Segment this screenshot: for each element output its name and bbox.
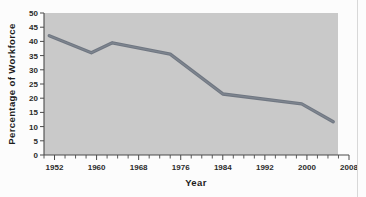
y-tick-label: 35 — [29, 52, 38, 61]
x-tick-label: 1976 — [172, 163, 190, 172]
y-axis-ticks — [40, 13, 44, 155]
y-tick-label: 20 — [29, 94, 38, 103]
y-tick-label: 10 — [29, 123, 38, 132]
panel-right-border — [357, 0, 358, 197]
y-axis-tick-labels: 05101520253035404550 — [29, 9, 38, 160]
x-tick-label: 1952 — [46, 163, 64, 172]
y-tick-label: 25 — [29, 80, 38, 89]
line-chart: 05101520253035404550 1952196019681976198… — [0, 0, 366, 197]
x-tick-label: 1992 — [256, 163, 274, 172]
plot-background — [44, 13, 338, 155]
x-tick-label: 2000 — [298, 163, 316, 172]
y-axis-label: Percentage of Workforce — [6, 23, 17, 144]
x-tick-label: 1984 — [214, 163, 232, 172]
y-tick-label: 15 — [29, 108, 38, 117]
x-axis-tick-labels: 19521960196819761984199220002008 — [46, 163, 359, 172]
y-tick-label: 40 — [29, 37, 38, 46]
x-tick-label: 2008 — [340, 163, 358, 172]
chart-figure: 05101520253035404550 1952196019681976198… — [0, 0, 366, 197]
y-tick-label: 0 — [34, 151, 39, 160]
x-tick-label: 1968 — [130, 163, 148, 172]
x-axis-ticks — [44, 155, 349, 160]
x-tick-label: 1960 — [88, 163, 106, 172]
y-tick-label: 50 — [29, 9, 38, 18]
y-tick-label: 30 — [29, 66, 38, 75]
x-axis-label: Year — [185, 177, 207, 188]
y-tick-label: 45 — [29, 23, 38, 32]
y-tick-label: 5 — [34, 137, 39, 146]
